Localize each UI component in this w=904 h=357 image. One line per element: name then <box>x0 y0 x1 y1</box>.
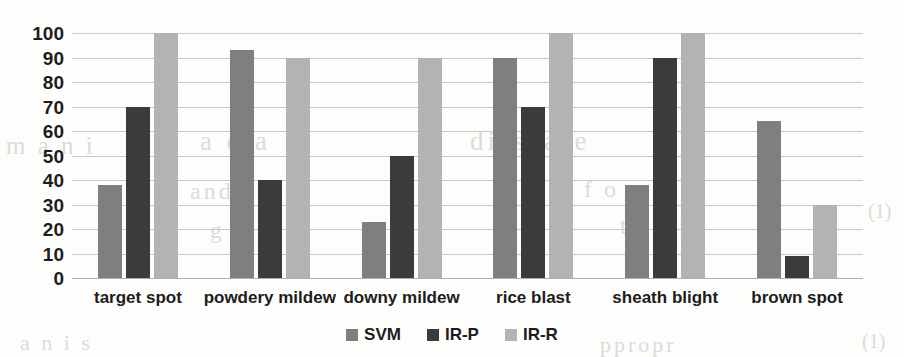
gridline <box>72 156 863 157</box>
gridline <box>72 229 863 230</box>
x-axis-label-rice-blast: rice blast <box>496 288 571 308</box>
bar-svm-sheath-blight[interactable] <box>625 185 649 278</box>
gridline <box>72 180 863 181</box>
y-axis-tick-label: 20 <box>12 219 64 241</box>
y-axis-tick-label: 10 <box>12 244 64 266</box>
gridline <box>72 33 863 34</box>
gridline <box>72 131 863 132</box>
x-axis-label-brown-spot: brown spot <box>751 288 843 308</box>
legend-label: IR-P <box>445 325 479 345</box>
legend-swatch-icon <box>346 329 358 341</box>
x-axis-label-target-spot: target spot <box>94 288 182 308</box>
bar-ir-r-powdery-mildew[interactable] <box>286 58 310 279</box>
plot-area <box>72 33 863 278</box>
bar-svm-downy-mildew[interactable] <box>362 222 386 278</box>
bar-ir-p-powdery-mildew[interactable] <box>258 180 282 278</box>
y-axis-tick-label: 70 <box>12 97 64 119</box>
bar-svm-brown-spot[interactable] <box>757 121 781 278</box>
bar-group <box>493 33 573 278</box>
bar-group <box>362 33 442 278</box>
y-axis-tick-label: 100 <box>12 23 64 45</box>
gridline <box>72 58 863 59</box>
bar-svm-target-spot[interactable] <box>98 185 122 278</box>
bar-group <box>98 33 178 278</box>
bar-group <box>230 33 310 278</box>
x-axis-label-sheath-blight: sheath blight <box>612 288 718 308</box>
legend-label: IR-R <box>523 325 558 345</box>
x-axis-label-powdery-mildew: powdery mildew <box>204 288 336 308</box>
y-axis-tick-label: 90 <box>12 48 64 70</box>
legend-item-ir-r[interactable]: IR-R <box>505 325 558 345</box>
legend-item-svm[interactable]: SVM <box>346 325 401 345</box>
gridline <box>72 254 863 255</box>
bar-ir-p-target-spot[interactable] <box>126 107 150 279</box>
bar-ir-r-sheath-blight[interactable] <box>681 33 705 278</box>
gridline <box>72 278 863 279</box>
bar-ir-p-rice-blast[interactable] <box>521 107 545 279</box>
y-axis-tick-label: 40 <box>12 170 64 192</box>
x-axis-label-downy-mildew: downy mildew <box>343 288 459 308</box>
legend-label: SVM <box>364 325 401 345</box>
gridline <box>72 82 863 83</box>
bar-ir-r-rice-blast[interactable] <box>549 33 573 278</box>
legend-item-ir-p[interactable]: IR-P <box>427 325 479 345</box>
y-axis-tick-label: 60 <box>12 121 64 143</box>
chart-legend: SVMIR-PIR-R <box>0 325 904 345</box>
chart-screenshot: m a n i a d a dissease and t h e n f o r… <box>0 0 904 357</box>
bar-ir-p-downy-mildew[interactable] <box>390 156 414 279</box>
grouped-bar-chart: 1009080706050403020100 target spotpowder… <box>0 0 904 357</box>
bar-ir-r-brown-spot[interactable] <box>813 205 837 279</box>
bar-ir-p-brown-spot[interactable] <box>785 256 809 278</box>
bar-group <box>757 33 837 278</box>
legend-swatch-icon <box>427 329 439 341</box>
bar-svm-rice-blast[interactable] <box>493 58 517 279</box>
legend-swatch-icon <box>505 329 517 341</box>
y-axis-tick-label: 30 <box>12 195 64 217</box>
bar-ir-p-sheath-blight[interactable] <box>653 58 677 279</box>
bar-group <box>625 33 705 278</box>
bar-ir-r-target-spot[interactable] <box>154 33 178 278</box>
y-axis-tick-label: 50 <box>12 146 64 168</box>
y-axis-tick-label: 80 <box>12 72 64 94</box>
bar-ir-r-downy-mildew[interactable] <box>418 58 442 279</box>
gridline <box>72 205 863 206</box>
gridline <box>72 107 863 108</box>
bar-svm-powdery-mildew[interactable] <box>230 50 254 278</box>
y-axis-tick-label: 0 <box>12 268 64 290</box>
